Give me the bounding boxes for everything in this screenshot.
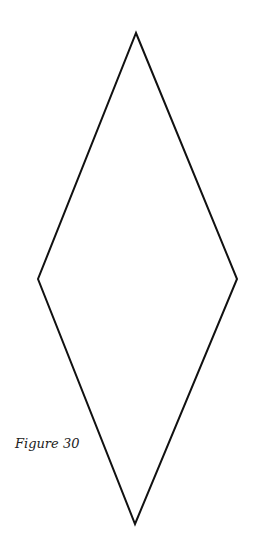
- figure-canvas: [0, 0, 254, 557]
- figure-caption: Figure 30: [15, 436, 79, 451]
